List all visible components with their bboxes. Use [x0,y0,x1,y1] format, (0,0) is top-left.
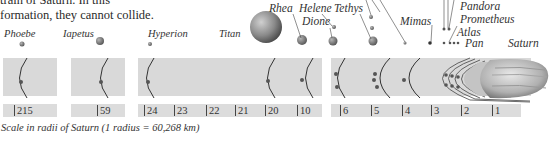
orbit-iapetus [101,58,109,98]
tick-4: 4 [402,105,410,116]
moon-pan-2 [453,42,456,45]
label-phoebe: Phoebe [4,28,36,39]
tick-23: 23 [174,105,188,116]
moon-hyperion [148,42,152,46]
moon-pan-3 [457,42,460,45]
label-pan: Pan [465,37,484,49]
label-pandora: Pandora [460,0,500,12]
label-mimas: Mimas [400,15,431,27]
moon-iapetus [96,37,104,45]
tick-22: 22 [206,105,220,116]
scale-bar-5: 6 5 4 3 2 1 [331,104,521,117]
label-hyperion: Hyperion [148,28,188,39]
orbit-hyperion [147,58,155,98]
moon-tethys [369,37,378,46]
tick-1: 1 [492,105,500,116]
moon-rhea [297,35,307,45]
moon-atlas [443,42,446,45]
orbit-tethys [380,58,390,98]
orbit-phoebe [20,58,28,98]
scale-bar-3: 24 23 22 21 20 [138,104,298,117]
tick-6: 6 [340,105,348,116]
scale-bar-2: 59 [71,104,125,117]
moon-pan-1 [449,42,452,45]
label-saturn: Saturn [508,37,539,49]
tick-20: 20 [265,105,279,116]
tick-21: 21 [235,105,249,116]
moon-tethys-small2 [370,26,374,30]
scale-bar-1: 215 [3,104,57,117]
orbit-rhea [306,58,314,98]
label-helene: Helene [299,2,332,14]
tick-2: 2 [461,105,469,116]
label-dione: Dione [302,15,330,27]
tick-5: 5 [371,105,379,116]
orbit-dione [338,58,346,98]
tick-59: 59 [97,105,111,116]
tick-215: 215 [14,105,33,116]
scale-caption: Scale in radii of Saturn (1 radius = 60,… [1,122,199,133]
tick-24: 24 [144,105,158,116]
label-rhea: Rhea [269,2,293,14]
moon-dione [329,37,338,46]
moon-titan [250,11,282,43]
saturn-body [480,59,548,98]
label-titan: Titan [219,28,241,39]
tick-3: 3 [431,105,439,116]
label-prometheus: Prometheus [460,13,515,25]
orbit-titan [268,58,276,98]
moon-phoebe [20,42,25,47]
orbit-mimas [409,58,420,98]
label-tethys: Tethys [334,2,363,14]
label-iapetus: Iapetus [63,28,94,39]
moon-helene [332,25,336,29]
scale-bar-4: 10 [289,104,322,117]
tick-10: 10 [297,105,311,116]
moon-tethys-small1 [369,15,373,19]
